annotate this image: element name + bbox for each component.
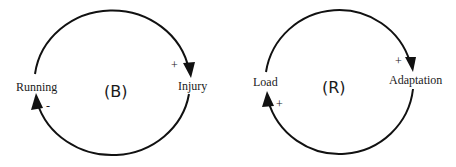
node-load: Load bbox=[253, 75, 278, 89]
causal-loop-diagrams: Running Injury (B) + - Load Adaptation (… bbox=[0, 0, 456, 167]
link-injury-to-running bbox=[37, 94, 189, 155]
polarity-injury-running: - bbox=[46, 99, 50, 113]
reinforcing-loop-diagram: Load Adaptation (R) + + bbox=[253, 10, 442, 154]
node-running: Running bbox=[16, 80, 57, 94]
link-running-to-injury bbox=[35, 10, 189, 74]
node-adaptation: Adaptation bbox=[389, 73, 442, 87]
loop-type-label: (R) bbox=[322, 78, 346, 97]
arrowhead-load-icon bbox=[262, 91, 274, 107]
polarity-adaptation-load: + bbox=[276, 97, 283, 111]
polarity-running-injury: + bbox=[171, 58, 178, 72]
node-injury: Injury bbox=[178, 79, 207, 93]
loop-type-label: (B) bbox=[104, 82, 127, 101]
link-adaptation-to-load bbox=[268, 89, 413, 154]
arrowhead-running-icon bbox=[31, 93, 43, 110]
arrowhead-adaptation-icon bbox=[405, 57, 416, 72]
arrowhead-injury-icon bbox=[183, 62, 195, 78]
balancing-loop-diagram: Running Injury (B) + - bbox=[16, 10, 207, 155]
polarity-load-adaptation: + bbox=[395, 54, 402, 68]
link-load-to-adaptation bbox=[266, 10, 410, 72]
